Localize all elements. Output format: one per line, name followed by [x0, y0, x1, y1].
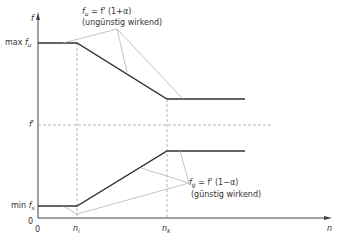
lower-sub: g	[192, 181, 196, 188]
max-sub: u	[28, 41, 32, 48]
lower-formula: fg = f' (1−α)	[189, 178, 238, 189]
max-prefix: max	[5, 38, 22, 47]
y-axis-arrow-icon	[36, 12, 40, 20]
min-fs-label: min fs	[11, 201, 35, 212]
x-axis-arrow-icon	[324, 216, 332, 220]
upper-formula: fu = f' (1+α)	[82, 7, 131, 18]
lower-formula-text: = f' (1−α)	[198, 178, 238, 187]
nk-label: nk	[162, 224, 171, 235]
max-fu-label: max fu	[5, 38, 32, 49]
upper-note: (ungünstig wirkend)	[82, 18, 162, 27]
n1-sub: i	[78, 227, 80, 234]
n1-label: ni	[73, 224, 80, 235]
origin-y-label: 0	[28, 217, 33, 226]
upper-sub: u	[85, 10, 89, 17]
min-sub: s	[31, 204, 34, 211]
upper-formula-text: = f' (1+α)	[91, 7, 131, 16]
upper-curve	[38, 43, 245, 99]
f-prime-label: f'	[29, 120, 34, 129]
lower-leaders	[63, 151, 189, 214]
diagram-canvas	[0, 0, 341, 239]
y-axis-label: f	[31, 14, 34, 23]
lower-note: (günstig wirkend)	[191, 190, 261, 199]
origin-x-label: 0	[35, 225, 40, 234]
x-axis-label: n	[327, 224, 332, 233]
nk-sub: k	[167, 227, 170, 234]
min-prefix: min	[11, 201, 26, 210]
upper-leaders	[63, 29, 183, 99]
